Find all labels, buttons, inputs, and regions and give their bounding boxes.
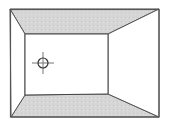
room-perspective-svg (0, 0, 169, 123)
room-diagram (0, 0, 169, 123)
back-wall-surface (25, 34, 108, 95)
